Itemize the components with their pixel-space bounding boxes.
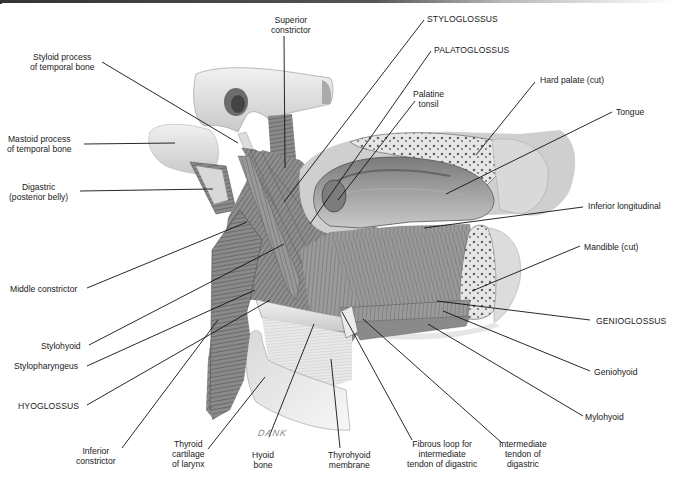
label-palatoglossus: PALATOGLOSSUS (434, 45, 509, 55)
leader-lines (0, 0, 677, 477)
label-hard-palate: Hard palate (cut) (540, 75, 604, 85)
leader-geniohyoid (443, 311, 590, 371)
label-middle-constrictor: Middle constrictor (10, 284, 77, 294)
leader-stylohyoid (89, 244, 284, 345)
label-mandible: Mandible (cut) (584, 242, 638, 252)
label-hyoglossus: HYOGLOSSUS (18, 401, 79, 411)
leader-styloglossus (284, 20, 424, 202)
label-geniohyoid: Geniohyoid (594, 367, 637, 377)
label-thyrohyoid-membrane: Thyrohyoid membrane (328, 450, 371, 470)
leader-hyoglossus (87, 300, 270, 405)
label-tongue: Tongue (616, 107, 644, 117)
leader-hyoid-bone (269, 324, 314, 437)
leader-hard-palate (476, 82, 535, 155)
leader-thyroid-cartilage (208, 377, 265, 449)
label-thyroid-cartilage: Thyroid cartilage of larynx (172, 439, 204, 469)
leader-inferior-constrictor (122, 320, 218, 448)
label-digastric-posterior: Digastric (posterior belly) (9, 182, 68, 202)
label-stylohyoid: Stylohyoid (41, 341, 81, 351)
label-genioglossus: GENIOGLOSSUS (596, 316, 666, 326)
leader-mandible (472, 246, 580, 291)
label-intermediate-tendon: Intermediate tendon of digastric (499, 439, 547, 469)
leader-inferior-longitudinal (424, 207, 583, 228)
label-stylopharyngeus: Stylopharyngeus (14, 361, 78, 371)
label-styloglossus: STYLOGLOSSUS (427, 14, 498, 24)
leader-mastoid-process (84, 143, 175, 144)
leader-genioglossus (437, 301, 590, 320)
label-styloid-process: Styloid process of temporal bone (30, 52, 95, 72)
label-fibrous-loop: Fibrous loop for intermediate tendon of … (407, 439, 477, 469)
leader-intermediate-tendon (363, 319, 502, 443)
label-mylohyoid: Mylohyoid (585, 412, 624, 422)
leader-superior-constrictor (284, 36, 285, 168)
label-palatine-tonsil: Palatine tonsil (413, 89, 444, 109)
leader-mylohyoid (428, 324, 583, 416)
leader-stylopharyngeus (87, 290, 255, 366)
label-inferior-constrictor: Inferior constrictor (76, 446, 116, 466)
leader-digastric-posterior (80, 189, 213, 191)
label-mastoid-process: Mastoid process of temporal bone (7, 134, 72, 154)
artist-signature: DANK (257, 428, 288, 438)
leader-styloid-process (102, 62, 238, 143)
leader-thyrohyoid-membrane (331, 359, 340, 448)
label-hyoid-bone: Hyoid bone (252, 450, 274, 470)
label-superior-constrictor: Superior constrictor (271, 15, 311, 35)
leader-palatine-tonsil (338, 101, 415, 200)
label-inferior-longitudinal: Inferior longitudinal (588, 201, 661, 211)
leader-tongue (446, 112, 612, 194)
leader-middle-constrictor (87, 222, 247, 288)
leader-palatoglossus (310, 51, 431, 224)
